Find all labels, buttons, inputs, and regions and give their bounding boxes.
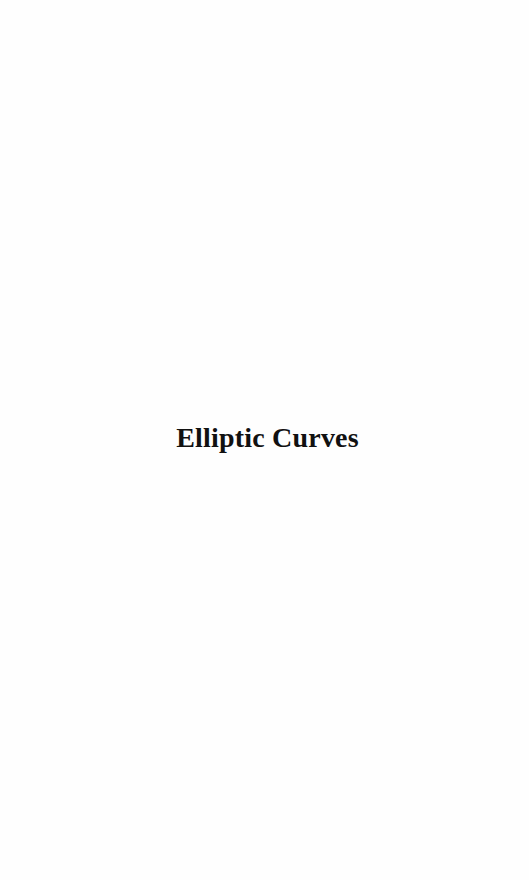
page-title: Elliptic Curves <box>0 420 529 456</box>
document-page: Elliptic Curves <box>0 0 529 880</box>
